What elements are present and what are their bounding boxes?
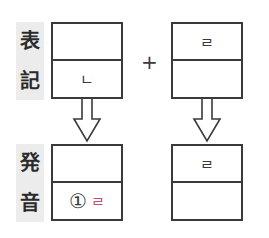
circled-number-one: ① (69, 189, 87, 213)
left-pronunciation-bottom-text: ㄹ (91, 190, 105, 211)
plus-operator: + (141, 52, 158, 72)
right-spelling-top-text: ㄹ (200, 31, 214, 52)
left-spelling-box: ㄴ (51, 22, 123, 99)
spelling-label-char-1: 表 (16, 29, 44, 53)
right-down-arrow-icon (189, 97, 225, 143)
right-spelling-box: ㄹ (171, 22, 243, 99)
pronunciation-label-char-1: 発 (16, 151, 44, 175)
right-pronunciation-bottom-cell (173, 183, 241, 220)
right-spelling-bottom-cell (173, 61, 241, 98)
left-pronunciation-box: ① ㄹ (51, 144, 123, 221)
right-pronunciation-top-cell: ㄹ (173, 146, 241, 183)
left-spelling-bottom-text: ㄴ (80, 68, 94, 89)
left-pronunciation-top-cell (53, 146, 121, 183)
left-down-arrow-icon (69, 97, 105, 143)
left-pronunciation-bottom-cell: ① ㄹ (53, 183, 121, 220)
spelling-label-char-2: 記 (16, 69, 44, 93)
right-spelling-top-cell: ㄹ (173, 24, 241, 61)
left-spelling-bottom-cell: ㄴ (53, 61, 121, 98)
spelling-label-column: 表 記 (16, 22, 44, 100)
pronunciation-label-column: 発 音 (16, 144, 44, 222)
left-spelling-top-cell (53, 24, 121, 61)
pronunciation-label-char-2: 音 (16, 191, 44, 215)
right-pronunciation-top-text: ㄹ (200, 153, 214, 174)
right-pronunciation-box: ㄹ (171, 144, 243, 221)
